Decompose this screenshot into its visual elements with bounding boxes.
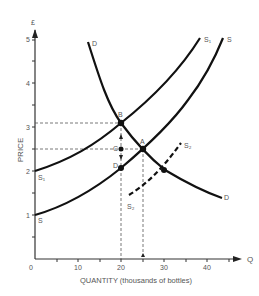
curve-labels: D D S₁ S₁ S S S₂ S₂ B A C D bbox=[38, 36, 232, 224]
point-D bbox=[118, 165, 124, 171]
point-A bbox=[140, 146, 146, 152]
label-S-left: S bbox=[38, 217, 43, 224]
label-S1-left: S₁ bbox=[38, 174, 46, 181]
label-A: A bbox=[140, 138, 145, 145]
y-unit-label: £ bbox=[31, 19, 35, 26]
label-D-point: D bbox=[113, 162, 118, 169]
label-S2-bottom: S₂ bbox=[127, 203, 135, 210]
x-marker-arrow-icon bbox=[141, 253, 145, 257]
x-tick-40: 40 bbox=[203, 264, 211, 271]
arrow-down-icon bbox=[119, 155, 123, 160]
point-C bbox=[119, 147, 124, 152]
arrow-up-icon bbox=[119, 134, 123, 139]
y-tick-labels: 5 4 3 2 1 bbox=[26, 36, 30, 219]
y-tick-5: 5 bbox=[26, 36, 30, 43]
y-tick-4: 4 bbox=[26, 80, 30, 87]
y-tick-2: 2 bbox=[26, 168, 30, 175]
x-axis-arrow-icon bbox=[233, 256, 242, 262]
supply-curve-S bbox=[35, 38, 223, 215]
label-S2-top: S₂ bbox=[184, 142, 192, 149]
label-C: C bbox=[113, 145, 118, 152]
x-axis-end-label: Q bbox=[247, 255, 253, 264]
supply-demand-chart: 5 4 3 2 1 0 10 20 30 40 £ PRICE Q QUANTI… bbox=[0, 0, 259, 296]
label-S-top: S bbox=[227, 36, 232, 43]
label-B: B bbox=[118, 111, 123, 118]
x-tick-10: 10 bbox=[74, 264, 82, 271]
x-tick-30: 30 bbox=[160, 264, 168, 271]
point-B bbox=[118, 120, 124, 126]
y-tick-1: 1 bbox=[26, 212, 30, 219]
x-tick-20: 20 bbox=[117, 264, 125, 271]
label-S1-top: S₁ bbox=[204, 36, 212, 43]
label-D-top: D bbox=[92, 40, 97, 47]
supply-curve-S2 bbox=[129, 143, 181, 195]
y-axis-label: PRICE bbox=[16, 138, 25, 162]
label-D-bottom: D bbox=[224, 194, 229, 201]
x-tick-0: 0 bbox=[29, 264, 33, 271]
x-axis-label: QUANTITY (thousands of bottles) bbox=[80, 276, 192, 285]
point-S2-D-intersection bbox=[161, 167, 167, 173]
y-tick-3: 3 bbox=[26, 124, 30, 131]
x-tick-labels: 0 10 20 30 40 bbox=[29, 264, 211, 271]
y-axis-arrow-icon bbox=[32, 29, 38, 38]
